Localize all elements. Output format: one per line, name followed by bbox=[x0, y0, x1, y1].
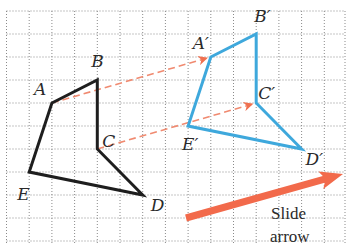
vertex-label: C′ bbox=[258, 83, 275, 103]
translation-vector-arrow bbox=[52, 58, 207, 103]
vertex-label: B bbox=[90, 51, 104, 71]
vector-arrows bbox=[52, 58, 252, 149]
vertex-label: D bbox=[150, 195, 165, 215]
original-polygon-outline bbox=[29, 80, 143, 195]
vertex-label: D′ bbox=[305, 149, 324, 169]
vertex-label: A′ bbox=[191, 33, 209, 53]
translation-vector-arrow bbox=[97, 104, 252, 149]
slide-arrow bbox=[185, 172, 343, 222]
vertex-label: A bbox=[32, 79, 46, 99]
slide-caption-line2: arrow bbox=[270, 227, 310, 245]
vertex-label: B′ bbox=[253, 6, 270, 26]
vertex-label: E′ bbox=[181, 134, 198, 154]
slide-arrow-shape bbox=[185, 172, 343, 222]
slide-caption-line1: Slide bbox=[271, 204, 306, 223]
vertex-label: E bbox=[16, 184, 30, 204]
image-polygon: A′B′C′D′E′ bbox=[181, 6, 323, 169]
vertex-label: C bbox=[102, 131, 115, 151]
original-polygon: ABCDE bbox=[16, 51, 165, 215]
translation-diagram: ABCDE A′B′C′D′E′ Slide arrow bbox=[0, 0, 351, 245]
